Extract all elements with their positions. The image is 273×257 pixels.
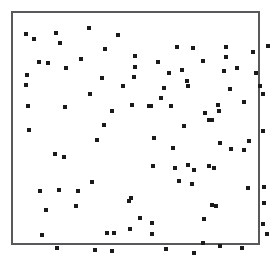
data-point: [173, 166, 177, 170]
data-point: [93, 248, 97, 252]
data-point: [265, 232, 269, 236]
data-point: [203, 111, 207, 115]
data-point: [128, 227, 132, 231]
data-point: [112, 231, 116, 235]
data-point: [216, 103, 220, 107]
data-point: [26, 104, 30, 108]
data-point: [79, 57, 83, 61]
data-point: [186, 163, 190, 167]
data-point: [190, 182, 194, 186]
data-point: [127, 199, 131, 203]
data-point: [103, 47, 107, 51]
data-point: [262, 185, 266, 189]
data-point: [266, 44, 270, 48]
data-point: [192, 251, 196, 255]
data-point: [25, 73, 29, 77]
data-point: [175, 45, 179, 49]
data-point: [105, 231, 109, 235]
data-point: [64, 66, 68, 70]
data-point: [251, 50, 255, 54]
data-point: [254, 71, 258, 75]
data-point: [24, 83, 28, 87]
data-point: [121, 84, 125, 88]
data-point: [202, 217, 206, 221]
data-point: [150, 232, 154, 236]
data-point: [235, 66, 239, 70]
plot-frame: [11, 11, 260, 245]
data-point: [240, 246, 244, 250]
data-point: [102, 123, 106, 127]
data-point: [261, 92, 265, 96]
data-point: [133, 54, 137, 58]
data-point: [156, 60, 160, 64]
data-point: [218, 141, 222, 145]
data-point: [74, 204, 78, 208]
data-point: [164, 247, 168, 251]
data-point: [133, 65, 137, 69]
data-point: [261, 222, 265, 226]
data-point: [159, 96, 163, 100]
data-point: [218, 244, 222, 248]
data-point: [152, 136, 156, 140]
data-point: [207, 164, 211, 168]
data-point: [27, 128, 31, 132]
data-point: [100, 76, 104, 80]
data-point: [58, 41, 62, 45]
data-point: [130, 103, 134, 107]
data-point: [162, 86, 166, 90]
data-point: [171, 146, 175, 150]
data-point: [95, 138, 99, 142]
data-point: [207, 118, 211, 122]
data-point: [185, 79, 189, 83]
data-point: [247, 139, 251, 143]
data-point: [40, 233, 44, 237]
data-point: [258, 84, 262, 88]
data-point: [210, 118, 214, 122]
data-point: [138, 216, 142, 220]
data-point: [177, 179, 181, 183]
data-point: [262, 201, 266, 205]
data-point: [57, 188, 61, 192]
data-point: [169, 104, 173, 108]
data-point: [110, 249, 114, 253]
data-point: [110, 109, 114, 113]
data-point: [224, 45, 228, 49]
data-point: [149, 104, 153, 108]
data-point: [46, 61, 50, 65]
data-point: [242, 100, 246, 104]
data-point: [44, 208, 48, 212]
data-point: [116, 33, 120, 37]
data-point: [55, 246, 59, 250]
data-point: [87, 26, 91, 30]
data-point: [62, 155, 66, 159]
data-point: [192, 168, 196, 172]
data-point: [76, 189, 80, 193]
data-point: [229, 147, 233, 151]
data-point: [129, 196, 133, 200]
data-point: [147, 104, 151, 108]
data-point: [186, 84, 190, 88]
data-point: [180, 68, 184, 72]
data-point: [88, 92, 92, 96]
data-point: [24, 32, 28, 36]
data-point: [132, 75, 136, 79]
data-point: [214, 204, 218, 208]
data-point: [210, 203, 214, 207]
data-point: [212, 166, 216, 170]
data-point: [261, 129, 265, 133]
data-point: [182, 124, 186, 128]
data-point: [150, 221, 154, 225]
data-point: [191, 46, 195, 50]
data-point: [54, 31, 58, 35]
data-point: [151, 164, 155, 168]
data-point: [63, 105, 67, 109]
data-point: [201, 241, 205, 245]
data-point: [224, 55, 228, 59]
data-point: [167, 71, 171, 75]
data-point: [228, 87, 232, 91]
data-point: [38, 189, 42, 193]
data-point: [242, 148, 246, 152]
data-point: [201, 59, 205, 63]
data-points-layer: [13, 13, 258, 243]
scatter-plot-figure: [0, 0, 273, 257]
